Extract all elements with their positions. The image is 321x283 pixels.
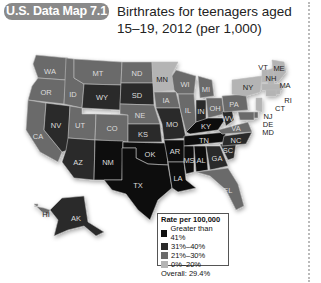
state-label-hi: HI: [42, 210, 50, 219]
state-label-nh: NH: [266, 74, 277, 83]
state-label-ut: UT: [75, 121, 85, 130]
legend: Rate per 100,000 Greater than 41% 31%–40…: [157, 213, 229, 266]
state-label-ny: NY: [243, 83, 253, 92]
state-label-vt: VT: [258, 63, 268, 72]
state-label-mi: MI: [202, 85, 210, 94]
state-label-nm: NM: [102, 158, 114, 167]
state-label-co: CO: [106, 124, 117, 133]
state-label-wy: WY: [96, 93, 108, 102]
legend-title: Rate per 100,000: [161, 215, 225, 224]
state-de: [254, 112, 258, 118]
state-label-il: IL: [185, 106, 191, 115]
legend-item: 21%–30%: [161, 251, 225, 260]
legend-swatch: [161, 243, 168, 250]
state-label-va: VA: [231, 124, 240, 133]
state-label-ar: AR: [170, 147, 181, 156]
state-ri: [276, 90, 280, 94]
state-label-la: LA: [173, 174, 182, 183]
state-label-ms: MS: [183, 156, 194, 165]
state-label-nc: NC: [231, 136, 242, 145]
state-label-ca: CA: [33, 132, 43, 141]
state-label-or: OR: [40, 88, 52, 97]
state-label-ia: IA: [162, 96, 169, 105]
state-label-ne: NE: [135, 111, 145, 120]
state-label-nv: NV: [51, 121, 61, 130]
state-label-wa: WA: [44, 67, 56, 76]
state-label-me: ME: [273, 64, 284, 73]
state-ct: [266, 90, 276, 96]
state-label-tx: TX: [133, 181, 143, 190]
legend-item: Greater than 41%: [161, 224, 225, 242]
state-label-az: AZ: [73, 158, 83, 167]
state-label-oh: OH: [209, 104, 220, 113]
state-label-ga: GA: [212, 154, 223, 163]
state-label-tn: TN: [199, 136, 209, 145]
legend-overall: Overall: 29.4%: [161, 269, 225, 278]
legend-swatch: [161, 261, 168, 268]
state-label-ct: CT: [275, 104, 285, 113]
state-label-al: AL: [196, 156, 205, 165]
legend-swatch: [161, 252, 168, 259]
state-nj: [256, 98, 262, 112]
state-label-mn: MN: [156, 75, 168, 84]
legend-item: 0%–20%: [161, 260, 225, 269]
state-label-md: MD: [262, 128, 274, 137]
state-label-pa: PA: [229, 100, 238, 109]
state-label-ri: RI: [284, 96, 292, 105]
state-label-wv: WV: [222, 114, 234, 123]
state-label-mo: MO: [166, 120, 178, 129]
state-md: [238, 112, 254, 120]
state-label-ks: KS: [138, 130, 148, 139]
state-fl: [196, 168, 244, 210]
state-label-ma: MA: [279, 81, 290, 90]
legend-item: 31%–40%: [161, 242, 225, 251]
state-label-ok: OK: [145, 150, 156, 159]
state-label-in: IN: [197, 107, 205, 116]
state-label-ky: KY: [201, 122, 211, 131]
state-label-mt: MT: [93, 69, 104, 78]
state-label-id: ID: [69, 90, 77, 99]
legend-swatch: [161, 230, 167, 237]
state-label-fl: FL: [224, 186, 233, 195]
state-label-sd: SD: [132, 91, 143, 100]
state-label-wi: WI: [180, 80, 189, 89]
state-label-ak: AK: [71, 214, 81, 223]
state-label-nd: ND: [132, 69, 143, 78]
state-label-sc: SC: [223, 146, 234, 155]
